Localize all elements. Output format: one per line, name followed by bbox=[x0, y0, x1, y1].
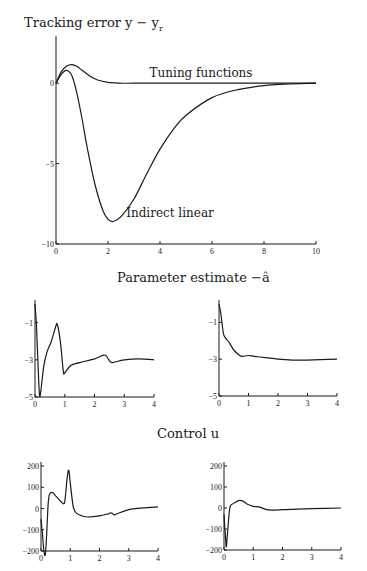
y-tick-label: 0 bbox=[35, 505, 39, 514]
x-tick-label: 2 bbox=[281, 553, 285, 562]
x-tick-label: 1 bbox=[63, 400, 67, 409]
x-tick-label: 4 bbox=[335, 399, 339, 408]
y-tick-label: 0 bbox=[218, 504, 222, 513]
y-tick-label: 100 bbox=[210, 483, 222, 492]
y-tick-label: −5 bbox=[45, 160, 54, 169]
x-tick-label: 3 bbox=[122, 400, 126, 409]
parameter-left-chart: 01234−1−3−5 bbox=[24, 300, 156, 409]
series-line-left bbox=[35, 304, 154, 397]
series-line-right bbox=[224, 500, 341, 547]
x-tick-label: 4 bbox=[158, 247, 162, 256]
x-tick-label: 0 bbox=[54, 247, 58, 256]
x-tick-label: 1 bbox=[247, 399, 251, 408]
y-tick-label: 100 bbox=[27, 483, 39, 492]
y-tick-label: −200 bbox=[22, 547, 39, 556]
control-right-chart: 012342001000−100−200 bbox=[205, 462, 343, 562]
x-tick-label: 0 bbox=[39, 554, 43, 563]
x-tick-label: 1 bbox=[251, 553, 255, 562]
series-line-indirect-linear bbox=[56, 70, 316, 221]
y-tick-label: −5 bbox=[208, 392, 217, 401]
x-tick-label: 2 bbox=[276, 399, 280, 408]
x-tick-label: 3 bbox=[310, 553, 314, 562]
x-tick-label: 0 bbox=[33, 400, 37, 409]
control-left-chart: 012342001000−100−200 bbox=[22, 462, 160, 563]
x-tick-label: 0 bbox=[217, 399, 221, 408]
x-tick-label: 2 bbox=[106, 247, 110, 256]
y-tick-label: −1 bbox=[208, 318, 217, 327]
x-tick-label: 0 bbox=[222, 553, 226, 562]
x-tick-label: 8 bbox=[262, 247, 266, 256]
y-tick-label: 200 bbox=[210, 462, 222, 471]
x-tick-label: 4 bbox=[339, 553, 343, 562]
x-tick-label: 3 bbox=[127, 554, 131, 563]
charts-canvas: 02468100−5−10Tuning functionsIndirect li… bbox=[0, 0, 367, 571]
series-line-left bbox=[41, 470, 158, 556]
y-tick-label: −3 bbox=[208, 355, 217, 364]
x-tick-label: 4 bbox=[152, 400, 156, 409]
y-tick-label: −100 bbox=[22, 526, 39, 535]
annotation-indirect-linear: Indirect linear bbox=[126, 206, 214, 220]
y-tick-label: 0 bbox=[50, 79, 54, 88]
tracking-error-chart: 02468100−5−10Tuning functionsIndirect li… bbox=[41, 36, 320, 256]
parameter-right-chart: 01234−1−3−5 bbox=[208, 300, 339, 408]
x-tick-label: 4 bbox=[156, 554, 160, 563]
x-tick-label: 6 bbox=[210, 247, 214, 256]
y-tick-label: −10 bbox=[41, 240, 54, 249]
annotation-tuning-functions: Tuning functions bbox=[150, 66, 253, 80]
y-tick-label: 200 bbox=[27, 462, 39, 471]
y-tick-label: −5 bbox=[24, 393, 33, 402]
x-tick-label: 2 bbox=[93, 400, 97, 409]
series-line-right bbox=[219, 304, 337, 360]
x-tick-label: 1 bbox=[68, 554, 72, 563]
y-tick-label: −3 bbox=[24, 356, 33, 365]
x-tick-label: 2 bbox=[98, 554, 102, 563]
y-tick-label: −200 bbox=[205, 546, 222, 555]
y-tick-label: −1 bbox=[24, 319, 33, 328]
x-tick-label: 3 bbox=[306, 399, 310, 408]
x-tick-label: 10 bbox=[312, 247, 320, 256]
y-tick-label: −100 bbox=[205, 525, 222, 534]
